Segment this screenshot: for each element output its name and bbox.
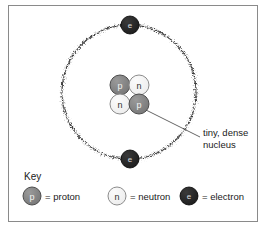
key-legend: Key p = proton n = neutron e = electron	[23, 171, 244, 205]
nucleus-particle-proton-bottom-right: p	[129, 94, 149, 114]
key-heading: Key	[24, 171, 41, 182]
electron-orbit-path	[61, 24, 198, 161]
nucleus-group: p n n p	[110, 75, 149, 114]
electron-top: e	[121, 16, 139, 34]
nucleus-particle-label: p	[117, 81, 122, 91]
key-proton-symbol: p	[29, 192, 34, 202]
key-electron-label: = electron	[202, 191, 244, 202]
nucleus-particle-neutron-bottom-left: n	[110, 94, 130, 114]
key-neutron-symbol: n	[114, 192, 119, 202]
nucleus-particle-label: n	[117, 100, 122, 110]
key-electron-symbol: e	[187, 192, 192, 201]
nucleus-particle-label: p	[136, 100, 141, 110]
key-neutron-label: = neutron	[130, 191, 170, 202]
key-entry-electron: e = electron	[180, 187, 244, 205]
key-entry-proton: p = proton	[23, 187, 80, 205]
electron-bottom: e	[121, 150, 139, 168]
electron-label: e	[128, 155, 133, 164]
nucleus-callout-line1: tiny, dense	[203, 127, 248, 138]
key-entry-neutron: n = neutron	[108, 187, 170, 205]
diagram-canvas: p n n p e e tiny, den	[0, 0, 268, 230]
nucleus-particle-neutron-top-right: n	[129, 75, 149, 95]
nucleus-particle-proton-top-left: p	[110, 75, 130, 95]
nucleus-callout-line2: nucleus	[203, 139, 236, 150]
nucleus-particle-label: n	[136, 81, 141, 91]
nucleus-callout: tiny, dense nucleus	[203, 127, 248, 150]
atom-diagram-figure: p n n p e e tiny, den	[0, 0, 268, 230]
electron-label: e	[128, 21, 133, 30]
key-proton-label: = proton	[45, 191, 80, 202]
